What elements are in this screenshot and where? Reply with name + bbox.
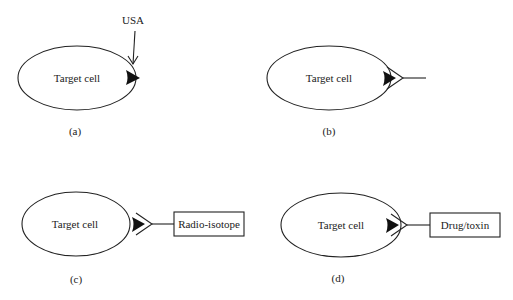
panel-caption: (d) xyxy=(332,272,345,285)
payload-label: Radio-isotope xyxy=(178,218,240,230)
usa-arrow-line xyxy=(133,31,135,64)
panel-b: Target cell (b) xyxy=(267,46,426,138)
payload-label: Drug/toxin xyxy=(441,219,490,231)
target-cell-label: Target cell xyxy=(54,72,100,84)
panel-a: Target cell USA (a) xyxy=(18,14,144,138)
target-cell-label: Target cell xyxy=(306,72,352,84)
panel-caption: (b) xyxy=(323,125,336,138)
panel-c: Target cell Radio-isotope (c) xyxy=(22,192,244,286)
antibody-targeting-diagram: Target cell USA (a) Target cell (b) Targ… xyxy=(0,0,513,300)
panel-caption: (c) xyxy=(70,273,83,286)
target-cell-label: Target cell xyxy=(52,218,98,230)
panel-caption: (a) xyxy=(69,125,82,138)
target-cell-label: Target cell xyxy=(318,219,364,231)
usa-label: USA xyxy=(122,14,144,26)
panel-d: Target cell Drug/toxin (d) xyxy=(281,193,500,285)
